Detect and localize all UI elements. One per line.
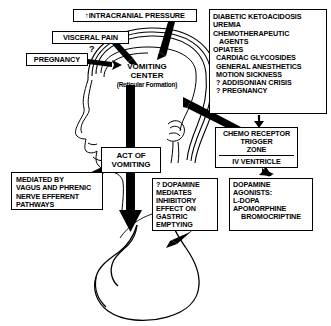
box-act-of-vomiting: ACT OF VOMITING [101,147,161,173]
stomach-outline [95,225,199,320]
ctz-ventricle: IV VENTRICLE [218,158,295,166]
mediated-line: PATHWAYS [16,201,98,209]
box-emetic-stimuli: DIABETIC KETOACIDOSIS UREMIA CHEMOTHERAP… [209,9,327,114]
box-intracranial-pressure: ↑INTRACRANIAL PRESSURE [73,9,197,22]
box-dopamine-mediates: ? DOPAMINE MEDIATES INHIBITORY EFFECT ON… [152,178,218,231]
box-pregnancy: PREGNANCY [26,53,88,66]
emetic-item: UREMIA [213,21,323,29]
emetic-item: CARDIAC GLYCOSIDES [213,54,323,62]
emetic-item: ? PREGNANCY [213,87,323,95]
act-line2: VOMITING [104,161,158,170]
box-visceral-pain: VISCERAL PAIN [52,31,129,44]
vomiting-center-subtitle: (Reticular Formation) [104,81,190,88]
cerebellum-outline [167,121,184,163]
box-mediated-by: MEDIATED BY VAGUS and PHRENIC NERVE EFFE… [11,172,103,210]
vomiting-pathophysiology-diagram: ↑INTRACRANIAL PRESSURE VISCERAL PAIN PRE… [0,0,331,326]
dopamine-mediates-line: EMPTYING [156,221,214,229]
ctz-divider [219,155,294,156]
arrow-dopamine-agonists-to-ctz [259,168,274,176]
mediated-line: VAGUS and PHRENIC [16,184,98,192]
box-dopamine-agonists: DOPAMINE AGONISTS: L-DOPA APOMORPHINE BR… [229,178,313,231]
box-chemoreceptor-trigger-zone: CHEMO RECEPTOR TRIGGER ZONE IV VENTRICLE [215,127,298,168]
brain-outline [101,47,196,131]
label-vomiting-center: VOMITING CENTER (Reticular Formation) [104,63,190,88]
head-profile-outline [88,28,216,163]
pregnancy-question-marker: ? [89,44,95,54]
ctz-line3: ZONE [218,146,295,154]
vomiting-center-line2: CENTER [104,72,190,81]
dopamine-agonist-line: BROMOCRIPTINE [233,213,309,221]
